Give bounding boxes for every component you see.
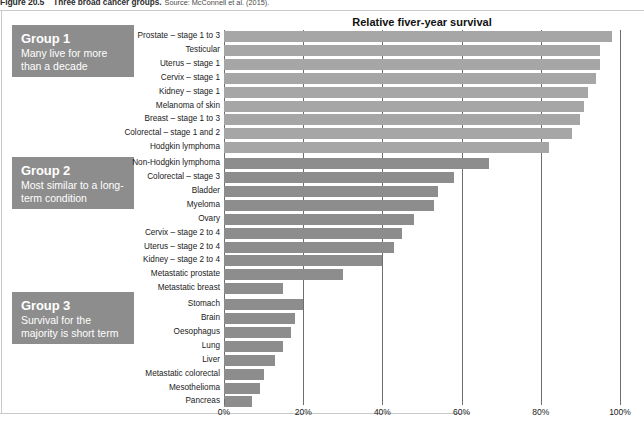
bar xyxy=(224,45,600,56)
bar-label: Cervix – stage 1 xyxy=(161,72,220,83)
bar-label: Breast – stage 1 to 3 xyxy=(144,113,220,124)
bar xyxy=(224,355,275,366)
bar-label: Uterus – stage 1 xyxy=(160,58,220,69)
bar-label: Pancreas xyxy=(185,395,220,406)
bar xyxy=(224,228,402,239)
bar-label: Prostate – stage 1 to 3 xyxy=(138,30,220,41)
bar-label: Colorectal – stage 1 and 2 xyxy=(124,127,220,138)
bar-label: Uterus – stage 2 to 4 xyxy=(144,241,220,252)
x-tick-0 xyxy=(224,399,225,405)
bar-label: Kidney – stage 2 to 4 xyxy=(143,254,220,265)
bar-label: Brain xyxy=(201,312,220,323)
bar-row: Kidney – stage 2 to 4 xyxy=(224,255,620,266)
bar-label: Stomach xyxy=(188,298,220,309)
bar-row: Metastatic colorectal xyxy=(224,369,620,380)
figure-caption-clip: Figure 20.5Three broad cancer groups.Sou… xyxy=(0,0,644,8)
bar-label: Ovary xyxy=(198,213,220,224)
bar-label: Kidney – stage 1 xyxy=(159,86,220,97)
bar xyxy=(224,59,600,70)
bar-row: Brain xyxy=(224,313,620,324)
bar-row: Uterus – stage 2 to 4 xyxy=(224,242,620,253)
bar-row: Non-Hodgkin lymphoma xyxy=(224,158,620,169)
bar xyxy=(224,101,584,112)
bar-row: Melanoma of skin xyxy=(224,101,620,112)
x-tick-100 xyxy=(620,399,621,405)
bar xyxy=(224,172,454,183)
bar-row: Metastatic prostate xyxy=(224,269,620,280)
bar-row: Cervix – stage 1 xyxy=(224,73,620,84)
bar xyxy=(224,114,580,125)
bar-row: Uterus – stage 1 xyxy=(224,59,620,70)
bar-label: Oesophagus xyxy=(174,326,220,337)
bar xyxy=(224,313,295,324)
bar-label: Non-Hodgkin lymphoma xyxy=(132,157,220,168)
x-tick-label-20: 20% xyxy=(295,407,312,417)
bar xyxy=(224,186,438,197)
bar xyxy=(224,341,283,352)
x-tick-20 xyxy=(303,399,304,405)
bar-label: Testicular xyxy=(185,44,220,55)
bar xyxy=(224,327,291,338)
bar xyxy=(224,299,303,310)
x-tick-label-100: 100% xyxy=(609,407,631,417)
figure-source: Source: McConnell et al. (2015). xyxy=(165,0,270,7)
bar xyxy=(224,87,588,98)
bar-label: Colorectal – stage 3 xyxy=(147,171,220,182)
bar xyxy=(224,369,264,380)
figure-caption: Figure 20.5Three broad cancer groups.Sou… xyxy=(0,0,644,8)
x-axis: 0%20%40%60%80%100% xyxy=(224,399,620,421)
plot-area: Prostate – stage 1 to 3TesticularUterus … xyxy=(224,30,620,399)
bar xyxy=(224,383,260,394)
bar-row: Ovary xyxy=(224,214,620,225)
bar xyxy=(224,142,549,153)
figure-number: Figure 20.5 xyxy=(0,0,44,7)
bar xyxy=(224,31,612,42)
bar xyxy=(224,73,596,84)
bar-row: Lung xyxy=(224,341,620,352)
bar-label: Melanoma of skin xyxy=(156,100,220,111)
bar xyxy=(224,269,343,280)
bar xyxy=(224,255,382,266)
x-tick-label-80: 80% xyxy=(532,407,549,417)
bar-label: Hodgkin lymphoma xyxy=(150,141,220,152)
bar-row: Colorectal – stage 3 xyxy=(224,172,620,183)
bar xyxy=(224,242,394,253)
x-tick-label-40: 40% xyxy=(374,407,391,417)
figure-title: Three broad cancer groups. xyxy=(53,0,161,7)
bar-row: Breast – stage 1 to 3 xyxy=(224,114,620,125)
bar-label: Metastatic prostate xyxy=(151,268,220,279)
bar-label: Cervix – stage 2 to 4 xyxy=(145,227,220,238)
bar-label: Metastatic breast xyxy=(158,282,220,293)
bar xyxy=(224,158,489,169)
bar-label: Lung xyxy=(202,340,220,351)
bar-label: Mesothelioma xyxy=(169,382,220,393)
bar-row: Stomach xyxy=(224,299,620,310)
bar-row: Prostate – stage 1 to 3 xyxy=(224,31,620,42)
bar-row: Mesothelioma xyxy=(224,383,620,394)
bar-row: Metastatic breast xyxy=(224,283,620,294)
page-rule-top xyxy=(0,10,644,11)
bar-label: Metastatic colorectal xyxy=(145,368,220,379)
survival-bar-chart: Relative fiver-year survival Prostate – … xyxy=(0,16,644,416)
bar xyxy=(224,128,572,139)
bar-label: Liver xyxy=(202,354,220,365)
bar-row: Myeloma xyxy=(224,200,620,211)
bar-row: Bladder xyxy=(224,186,620,197)
bar-row: Colorectal – stage 1 and 2 xyxy=(224,128,620,139)
bar-row: Testicular xyxy=(224,45,620,56)
bar-row: Cervix – stage 2 to 4 xyxy=(224,228,620,239)
bar xyxy=(224,200,434,211)
x-tick-label-60: 60% xyxy=(453,407,470,417)
bar xyxy=(224,214,414,225)
bar xyxy=(224,283,283,294)
x-tick-60 xyxy=(462,399,463,405)
bar-label: Bladder xyxy=(192,185,220,196)
x-tick-40 xyxy=(382,399,383,405)
gridline-100 xyxy=(620,30,621,399)
bar-row: Kidney – stage 1 xyxy=(224,87,620,98)
bar-row: Liver xyxy=(224,355,620,366)
bar-row: Oesophagus xyxy=(224,327,620,338)
bar-label: Myeloma xyxy=(187,199,220,210)
x-tick-label-0: 0% xyxy=(218,407,230,417)
chart-title: Relative fiver-year survival xyxy=(224,16,620,29)
